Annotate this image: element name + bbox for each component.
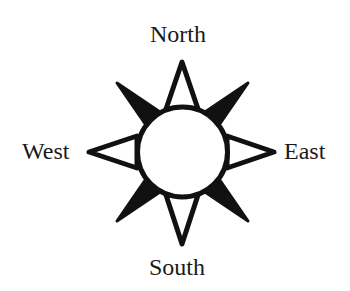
south-label: South [149,255,205,279]
west-label: West [22,139,69,163]
east-point-icon [227,136,274,168]
east-label: East [284,139,325,163]
south-point-icon [166,195,198,244]
north-label: North [150,22,206,46]
center-circle-icon [138,107,228,197]
north-point-icon [166,62,198,109]
west-point-icon [89,136,137,168]
